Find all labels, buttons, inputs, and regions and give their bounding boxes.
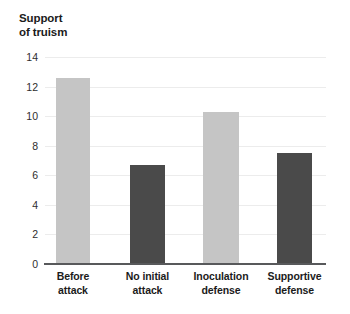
- y-tick-label-14: 14: [0, 52, 38, 62]
- y-tick-label-6: 6: [0, 170, 38, 180]
- y-tick-label-8: 8: [0, 141, 38, 151]
- x-label-4: Supportive defense: [245, 270, 345, 297]
- y-tick-label-0: 0: [0, 259, 38, 269]
- gridline-14: [45, 57, 326, 58]
- y-tick-label-2: 2: [0, 229, 38, 239]
- y-tick-label-12: 12: [0, 82, 38, 92]
- bar-chart: Support of truism 02468101214 Before att…: [0, 0, 350, 314]
- plot-area: [45, 57, 326, 264]
- x-axis-line: [44, 263, 326, 265]
- y-tick-label-4: 4: [0, 200, 38, 210]
- x-axis-labels: Before attackNo initial attackInoculatio…: [0, 270, 350, 314]
- y-axis: 02468101214: [0, 0, 38, 314]
- bar-3: [203, 112, 239, 264]
- bar-2: [130, 165, 165, 264]
- bar-1: [56, 78, 90, 264]
- bar-4: [277, 153, 312, 264]
- y-tick-label-10: 10: [0, 111, 38, 121]
